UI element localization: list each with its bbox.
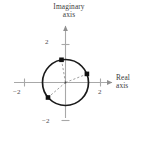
complex-plane-figure: Imaginary axis Real axis 2 −2 2 −2	[0, 0, 143, 143]
tick-label-real-positive: 2	[98, 88, 102, 96]
figure-canvas	[0, 0, 143, 143]
tick-label-real-negative: −2	[13, 88, 20, 96]
tick-label-imaginary-positive: 2	[45, 38, 49, 46]
radius-line-to-point-2	[62, 60, 66, 83]
root-marker-2	[59, 58, 64, 63]
imaginary-axis-label-line2: axis	[46, 11, 92, 19]
root-marker-3	[46, 95, 51, 100]
radius-line-to-point-1	[66, 74, 88, 83]
real-axis-label-line2: axis	[116, 82, 143, 90]
radius-line-to-point-3	[48, 83, 66, 98]
real-axis-label: Real axis	[116, 74, 143, 91]
root-marker-1	[85, 72, 90, 77]
origin-point	[65, 82, 67, 84]
tick-label-imaginary-negative: −2	[42, 117, 49, 125]
imaginary-axis-label: Imaginary axis	[46, 3, 92, 20]
